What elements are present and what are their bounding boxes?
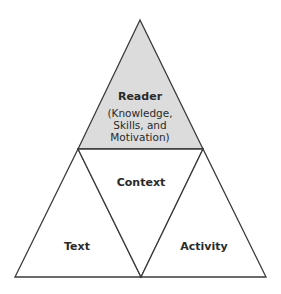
reader-detail-line-3: Motivation) — [110, 131, 169, 143]
reading-framework-diagram: Reader (Knowledge, Skills, and Motivatio… — [0, 0, 281, 294]
text-label: Text — [64, 240, 90, 253]
reader-detail-line-2: Skills, and — [113, 119, 166, 131]
reader-detail-line-1: (Knowledge, — [107, 107, 172, 119]
reader-label: Reader — [118, 90, 163, 103]
activity-label: Activity — [180, 240, 227, 253]
context-label: Context — [117, 176, 166, 189]
